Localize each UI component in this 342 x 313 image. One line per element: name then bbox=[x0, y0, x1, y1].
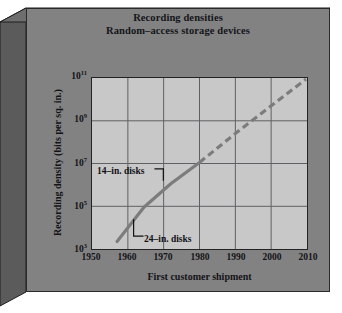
y-tick-base: 10 bbox=[71, 71, 81, 81]
annotation-leader-14in bbox=[154, 169, 163, 181]
chart-title-line-1: Recording densities bbox=[133, 12, 223, 23]
x-tick-label-1990: 1990 bbox=[216, 252, 256, 262]
x-tick-label-1960: 1960 bbox=[107, 252, 147, 262]
chart-title-line-2: Random–access storage devices bbox=[26, 25, 330, 38]
y-tick-exp: 9 bbox=[84, 112, 87, 119]
y-tick-base: 10 bbox=[74, 158, 84, 168]
plot-area bbox=[91, 77, 308, 250]
x-tick-label-1950: 1950 bbox=[71, 252, 111, 262]
y-tick-base: 10 bbox=[74, 201, 84, 211]
x-tick-label-2010: 2010 bbox=[288, 252, 328, 262]
annotation-leader-24in bbox=[134, 219, 144, 236]
y-tick-exp: 5 bbox=[84, 199, 87, 206]
y-axis-title: Recording density (bits per sq. in.) bbox=[52, 63, 63, 263]
y-tick-exp: 7 bbox=[84, 156, 87, 163]
x-tick-label-1970: 1970 bbox=[143, 252, 183, 262]
plot-canvas bbox=[92, 78, 307, 249]
x-tick-label-1980: 1980 bbox=[180, 252, 220, 262]
x-axis-title: First customer shipment bbox=[91, 271, 308, 282]
y-tick-exp: 3 bbox=[84, 242, 87, 249]
y-tick-exp: 11 bbox=[81, 69, 87, 76]
chart-figure: Recording densities Random–access storag… bbox=[0, 0, 342, 313]
annotation-label-24in-disks: 24–in. disks bbox=[144, 234, 192, 244]
chart-title: Recording densities Random–access storag… bbox=[26, 12, 330, 37]
annotation-label-14in-disks: 14–in. disks bbox=[97, 166, 145, 176]
x-tick-label-2000: 2000 bbox=[252, 252, 292, 262]
y-tick-base: 10 bbox=[74, 114, 84, 124]
